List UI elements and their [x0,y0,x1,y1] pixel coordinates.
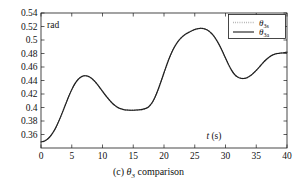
caption-symbol-subscript: 3 [131,172,135,180]
y-tick-label: 0.38 [21,116,38,126]
theta3-comparison-chart: 0.360.380.40.420.440.460.480.50.520.54 0… [0,0,297,187]
y-tick-label: 0.46 [21,62,38,72]
legend: θ3s θ3a [229,15,286,39]
x-tick-label: 15 [129,151,139,161]
figure-container: 0.360.380.40.420.440.460.480.50.520.54 0… [0,0,297,187]
x-tick-label: 0 [39,151,44,161]
caption-text: comparison [137,166,184,177]
series-theta3s-line [41,28,287,142]
y-tick-label: 0.54 [21,8,38,18]
caption-prefix: (c) [113,166,124,177]
series-theta3a-line [41,28,287,142]
x-tick-label: 40 [282,151,292,161]
y-tick-label: 0.44 [21,76,38,86]
x-tick-label: 30 [221,151,231,161]
x-tick-label: 35 [252,151,262,161]
x-axis-tick-labels: 0510152025303540 [39,151,292,161]
y-tick-label: 0.5 [26,35,38,45]
x-tick-label: 10 [98,151,108,161]
x-tick-label: 20 [159,151,169,161]
x-tick-label: 5 [69,151,74,161]
figure-caption: (c) θ3 comparison [0,166,297,182]
y-unit-label: rad [47,20,59,30]
y-tick-label: 0.36 [21,130,38,140]
y-tick-label: 0.42 [21,89,38,99]
y-tick-label: 0.48 [21,49,38,59]
y-tick-label: 0.52 [21,22,38,32]
x-axis-label: t(s) [207,131,222,142]
y-axis-tick-labels: 0.360.380.40.420.440.460.480.50.520.54 [21,8,38,140]
legend-box [229,15,286,39]
y-tick-label: 0.4 [26,103,38,113]
x-tick-label: 25 [190,151,200,161]
